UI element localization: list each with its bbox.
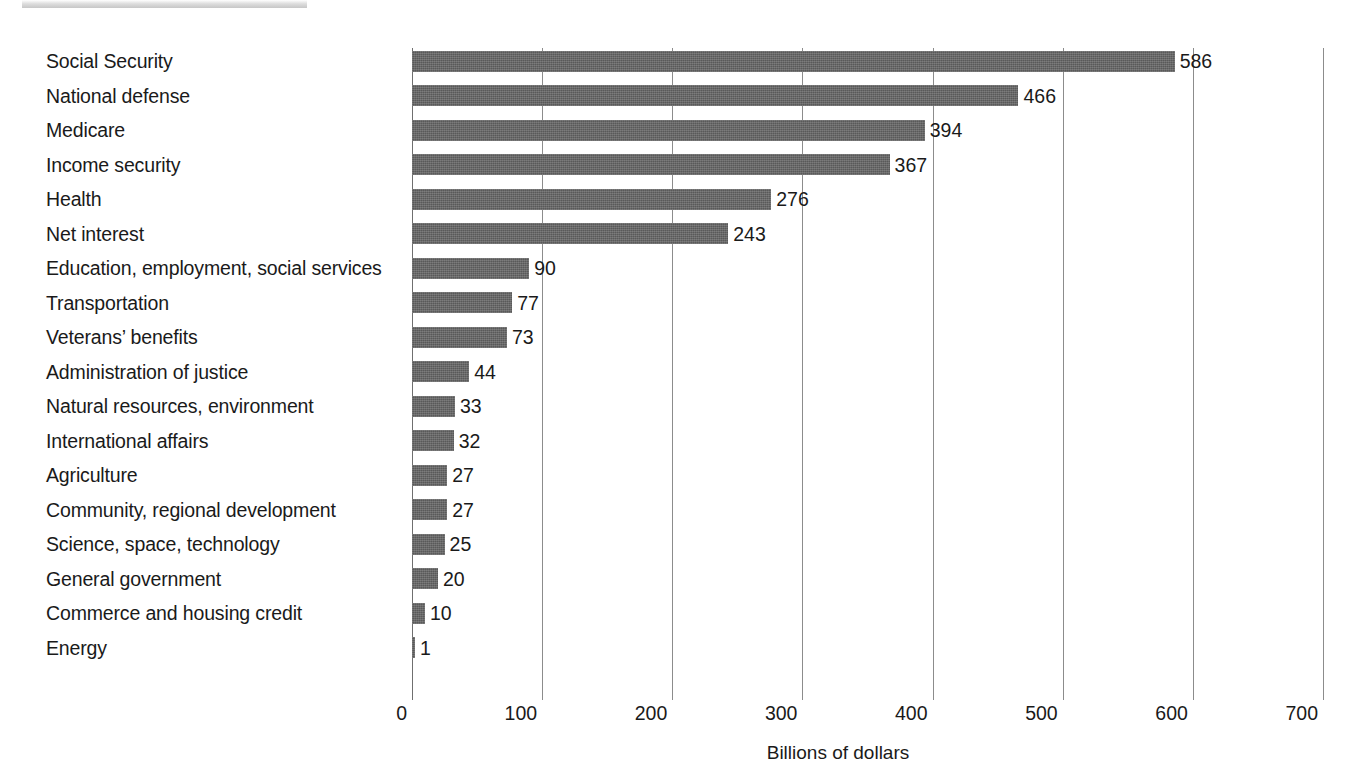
bar-value-label: 33 [460,394,482,418]
category-label: Medicare [46,113,125,148]
x-tick-label-100: 100 [505,702,543,725]
bar[interactable] [412,85,1018,106]
bar[interactable] [412,154,890,175]
category-label: Science, space, technology [46,527,280,562]
bar[interactable] [412,568,438,589]
x-tick-label-700: 700 [1285,702,1323,725]
bar-row: Agriculture27 [0,458,1358,493]
x-tick-label-500: 500 [1025,702,1063,725]
bar-row: International affairs32 [0,424,1358,459]
bar-value-label: 466 [1023,84,1056,108]
bar[interactable] [412,51,1175,72]
bar[interactable] [412,534,445,555]
category-label: Veterans’ benefits [46,320,198,355]
category-label: Administration of justice [46,355,248,390]
bar[interactable] [412,637,415,658]
bar-row: Commerce and housing credit10 [0,596,1358,631]
category-label: Social Security [46,44,173,79]
chart-page: Social Security586National defense466Med… [0,0,1358,776]
bar[interactable] [412,465,447,486]
category-label: Natural resources, environment [46,389,314,424]
bar-row: Administration of justice44 [0,355,1358,390]
category-label: Net interest [46,217,144,252]
bar[interactable] [412,223,728,244]
bar-value-label: 77 [517,291,539,315]
bar[interactable] [412,120,925,141]
bar-chart-plot-area: Social Security586National defense466Med… [0,0,1358,776]
category-label: International affairs [46,424,208,459]
bar[interactable] [412,430,454,451]
x-axis-title: Billions of dollars [0,742,1358,764]
bar-value-label: 586 [1180,49,1213,73]
category-label: Energy [46,631,107,666]
category-label: Agriculture [46,458,138,493]
category-label: General government [46,562,221,597]
x-axis-title-label: Billions of dollars [767,742,910,764]
bar-value-label: 1 [420,636,431,660]
bar[interactable] [412,292,512,313]
bar-row: Net interest243 [0,217,1358,252]
bar-value-label: 27 [452,463,474,487]
bar-row: Science, space, technology25 [0,527,1358,562]
bar[interactable] [412,499,447,520]
bar-row: Transportation77 [0,286,1358,321]
x-tick-label-0: 0 [396,702,412,725]
bar-value-label: 44 [474,360,496,384]
bar[interactable] [412,396,455,417]
bar[interactable] [412,603,425,624]
bar-row: Education, employment, social services90 [0,251,1358,286]
bar-row: Income security367 [0,148,1358,183]
bar-row: Community, regional development27 [0,493,1358,528]
x-tick-label-300: 300 [765,702,803,725]
bar-value-label: 25 [450,532,472,556]
bar-row: General government20 [0,562,1358,597]
bar-value-label: 90 [534,256,556,280]
bar-row: Veterans’ benefits73 [0,320,1358,355]
category-label: Commerce and housing credit [46,596,302,631]
category-label: Community, regional development [46,493,336,528]
bar-row: Medicare394 [0,113,1358,148]
x-tick-label-600: 600 [1155,702,1193,725]
bar-value-label: 367 [895,153,928,177]
bar-value-label: 27 [452,498,474,522]
x-tick-label-200: 200 [635,702,673,725]
bar[interactable] [412,258,529,279]
bar[interactable] [412,361,469,382]
x-tick-label-400: 400 [895,702,933,725]
category-label: Health [46,182,101,217]
bar-row: Social Security586 [0,44,1358,79]
bar[interactable] [412,327,507,348]
bar-value-label: 10 [430,601,452,625]
bar-value-label: 394 [930,118,963,142]
bar-row: Health276 [0,182,1358,217]
category-label: Transportation [46,286,169,321]
category-label: National defense [46,79,190,114]
category-label: Income security [46,148,180,183]
bar-row: Natural resources, environment33 [0,389,1358,424]
bar-value-label: 243 [733,222,766,246]
category-label: Education, employment, social services [46,251,382,286]
bar-row: National defense466 [0,79,1358,114]
bar-value-label: 32 [459,429,481,453]
bar-value-label: 20 [443,567,465,591]
bar-row: Energy1 [0,631,1358,666]
bar-value-label: 73 [512,325,534,349]
bar-value-label: 276 [776,187,809,211]
bar[interactable] [412,189,771,210]
